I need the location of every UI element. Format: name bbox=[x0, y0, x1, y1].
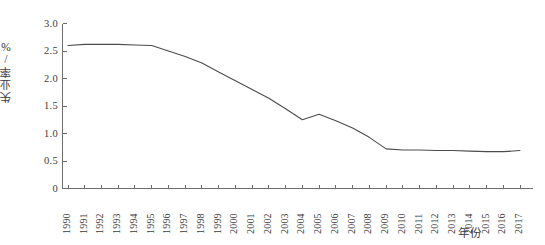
x-axis-tick-label: 2008 bbox=[363, 213, 373, 234]
x-axis-tick-label: 1997 bbox=[179, 213, 189, 234]
x-axis-tick-label: 2002 bbox=[263, 213, 273, 234]
x-axis-tick-label: 1996 bbox=[162, 213, 172, 234]
x-axis-tick-label: 2007 bbox=[347, 213, 357, 234]
x-axis-tick-label: 2001 bbox=[246, 213, 256, 234]
x-axis-tick-label: 2006 bbox=[330, 213, 340, 234]
x-axis-tick-label: 2004 bbox=[296, 213, 306, 234]
x-axis-tick-label: 1992 bbox=[95, 213, 105, 234]
x-axis-title: 年份 bbox=[458, 224, 482, 240]
x-axis-tick-label: 2009 bbox=[380, 213, 390, 234]
x-axis-tick-label: 2000 bbox=[229, 213, 239, 234]
x-axis-tick-label: 2015 bbox=[481, 213, 491, 234]
x-axis-tick-label: 2010 bbox=[397, 213, 407, 234]
x-axis-tick-label: 2017 bbox=[514, 213, 524, 234]
x-axis-tick-label: 1994 bbox=[129, 213, 139, 234]
unemployment-rate-line-chart: 失业率/% 3.02.52.01.51.00.50 19901991199219… bbox=[0, 0, 545, 245]
x-axis-tick-label: 2003 bbox=[280, 213, 290, 234]
x-axis-tick-label: 1995 bbox=[146, 213, 156, 234]
x-axis-tick-label: 2013 bbox=[447, 213, 457, 234]
y-axis-tickmarks bbox=[63, 24, 67, 189]
x-axis-tick-label: 1993 bbox=[112, 213, 122, 234]
x-axis-tick-label: 1991 bbox=[79, 213, 89, 234]
x-axis-tick-label: 2012 bbox=[430, 213, 440, 234]
x-axis-tick-label: 2011 bbox=[414, 214, 424, 234]
x-axis-tickmarks bbox=[68, 185, 520, 189]
x-axis-tick-label: 2005 bbox=[313, 213, 323, 234]
x-axis-tick-label: 1998 bbox=[196, 213, 206, 234]
x-axis-tick-label: 1990 bbox=[62, 213, 72, 234]
unemployment-rate-line bbox=[68, 44, 520, 151]
x-axis-tick-label: 2016 bbox=[497, 213, 507, 234]
x-axis-tick-label: 1999 bbox=[213, 213, 223, 234]
